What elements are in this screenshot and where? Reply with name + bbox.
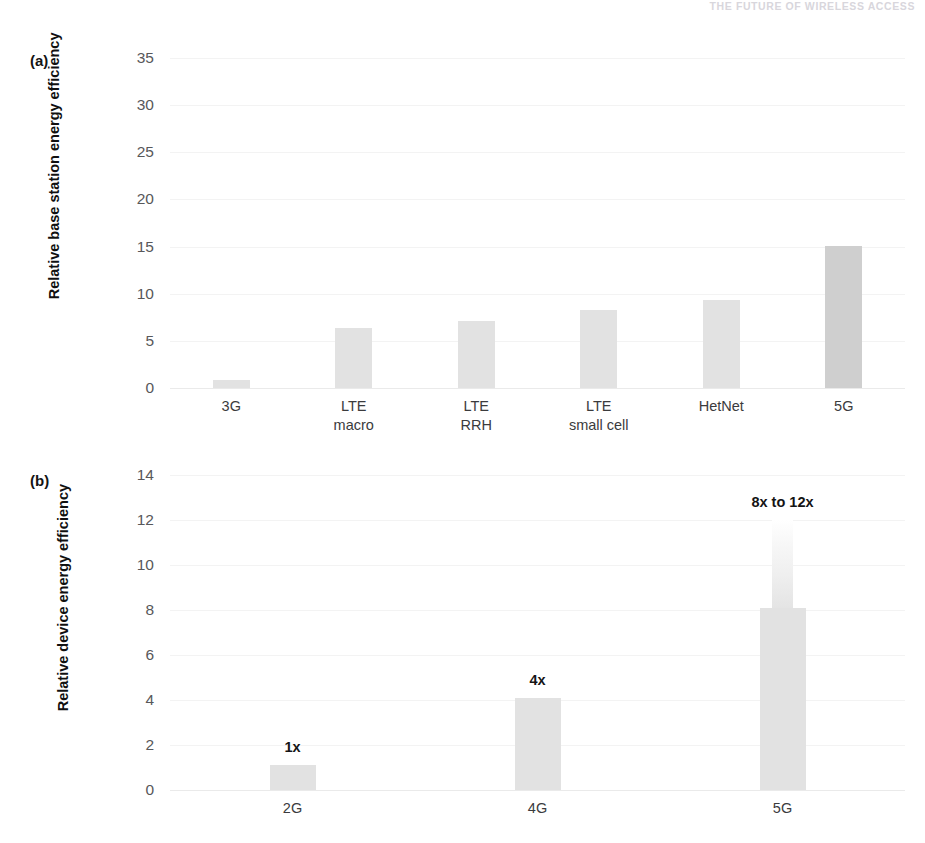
- gridline: [170, 58, 905, 59]
- y-axis-tick-label: 12: [137, 511, 154, 529]
- axis-baseline: [170, 790, 905, 791]
- x-axis-tick-label: 2G: [283, 799, 302, 818]
- bar-value-annotation: 1x: [284, 739, 300, 755]
- panel-label-b: (b): [30, 472, 49, 489]
- y-axis-tick-label: 4: [145, 691, 154, 709]
- y-axis-tick-label: 10: [137, 285, 154, 303]
- y-axis-tick-label: 30: [137, 96, 154, 114]
- figure-page: THE FUTURE OF WIRELESS ACCESS (a) Relati…: [0, 0, 925, 843]
- x-axis-tick-label: LTE macro: [334, 397, 374, 435]
- x-axis-tick-label: 3G: [222, 397, 241, 416]
- bar: [270, 765, 316, 790]
- bar: [760, 608, 806, 790]
- gridline: [170, 520, 905, 521]
- y-axis-title-b: Relative device energy efficiency: [54, 511, 73, 711]
- y-axis-tick-label: 15: [137, 238, 154, 256]
- chart-panel-a: (a) Relative base station energy efficie…: [0, 40, 925, 430]
- bar-range-extension: [772, 520, 792, 608]
- bar: [335, 328, 372, 388]
- bar: [703, 300, 740, 388]
- bar: [213, 380, 250, 388]
- y-axis-tick-label: 35: [137, 49, 154, 67]
- bar: [580, 310, 617, 388]
- gridline: [170, 247, 905, 248]
- y-axis-tick-label: 8: [145, 601, 154, 619]
- gridline: [170, 565, 905, 566]
- y-axis-tick-label: 10: [137, 556, 154, 574]
- x-axis-tick-label: 5G: [834, 397, 853, 416]
- x-axis-tick-label: 4G: [528, 799, 547, 818]
- x-axis-tick-label: LTE small cell: [569, 397, 629, 435]
- gridline: [170, 152, 905, 153]
- x-axis-tick-label: 5G: [773, 799, 792, 818]
- y-axis-title-a: Relative base station energy efficiency: [45, 99, 64, 299]
- x-axis-tick-label: LTE RRH: [461, 397, 492, 435]
- y-axis-tick-label: 5: [145, 332, 154, 350]
- running-header: THE FUTURE OF WIRELESS ACCESS: [710, 0, 915, 12]
- y-axis-tick-label: 25: [137, 143, 154, 161]
- x-axis-tick-label: HetNet: [699, 397, 744, 416]
- y-axis-tick-label: 0: [145, 379, 154, 397]
- y-axis-tick-label: 6: [145, 646, 154, 664]
- gridline: [170, 105, 905, 106]
- chart-panel-b: (b) Relative device energy efficiency 02…: [0, 462, 925, 837]
- plot-area-a: 051015202530353GLTE macroLTE RRHLTE smal…: [170, 58, 905, 388]
- axis-baseline: [170, 388, 905, 389]
- bar: [825, 246, 862, 388]
- gridline: [170, 341, 905, 342]
- y-axis-tick-label: 2: [145, 736, 154, 754]
- bar-value-annotation: 8x to 12x: [751, 494, 813, 510]
- bar: [458, 321, 495, 388]
- gridline: [170, 199, 905, 200]
- bar-value-annotation: 4x: [529, 672, 545, 688]
- plot-area-b: 024681012141x2G4x4G8x to 12x5G: [170, 475, 905, 790]
- gridline: [170, 475, 905, 476]
- y-axis-tick-label: 20: [137, 190, 154, 208]
- y-axis-tick-label: 14: [137, 466, 154, 484]
- y-axis-tick-label: 0: [145, 781, 154, 799]
- bar: [515, 698, 561, 790]
- gridline: [170, 294, 905, 295]
